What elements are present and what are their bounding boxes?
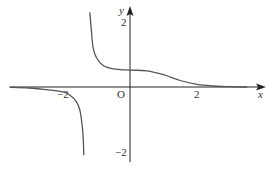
x-axis-label: x (257, 88, 263, 100)
y-tick-label: −2 (115, 146, 127, 158)
right-branch-curve (90, 12, 248, 87)
origin-label: O (117, 88, 125, 100)
y-tick-label: 2 (121, 16, 127, 28)
x-tick-label: 2 (194, 88, 200, 100)
function-graph: x y O −22 2−2 (0, 0, 276, 169)
axis-labels: x y O −22 2−2 (57, 4, 263, 158)
axes (10, 6, 266, 162)
curves (9, 12, 247, 155)
x-tick-labels: −22 (57, 88, 200, 100)
left-branch-curve (9, 87, 83, 155)
y-axis-label: y (118, 4, 124, 16)
